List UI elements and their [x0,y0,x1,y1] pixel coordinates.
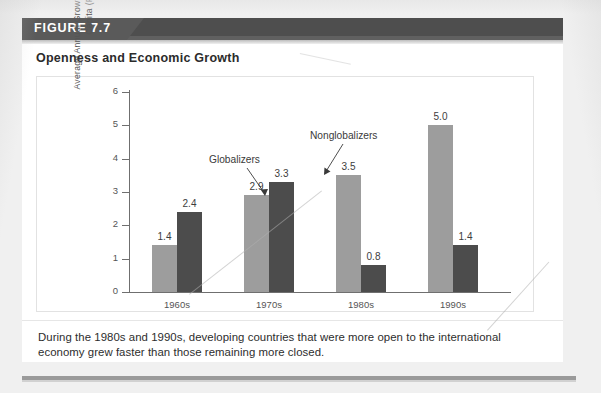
bar-value-label: 5.0 [434,111,448,122]
y-tick-label: 3 [96,185,118,196]
y-tick-mark [122,92,130,93]
figure-page: FIGURE 7.7 Openness and Economic Growth … [0,0,601,393]
page-bottom-rule-soft [22,380,576,382]
bar-value-label: 1.4 [158,231,172,242]
bar-value-label: 3.5 [342,161,356,172]
plot-area: 0123456 1.42.42.93.33.50.85.01.4 1960s19… [129,90,511,293]
bar-1990s-nonglobalizers: 1.4 [453,245,478,292]
y-tick-mark [122,125,130,126]
figure-caption: During the 1980s and 1990s, developing c… [38,330,538,360]
y-tick-mark [122,259,130,260]
bar-value-label: 0.8 [367,251,381,262]
bar-1960s-globalizers: 1.4 [152,245,177,292]
y-tick-mark [122,192,130,193]
figure-title: Openness and Economic Growth [36,51,240,65]
bar-value-label: 1.4 [459,231,473,242]
y-tick-label: 6 [96,85,118,96]
x-category-label: 1990s [440,299,466,310]
y-tick-label: 4 [96,152,118,163]
y-tick-mark [122,292,130,293]
y-tick-label: 5 [96,118,118,129]
annotation-nonglobalizers: Nonglobalizers [310,130,377,141]
y-tick-mark [122,225,130,226]
bar-1960s-nonglobalizers: 2.4 [177,212,202,292]
bar-1990s-globalizers: 5.0 [428,125,453,292]
y-tick-label: 2 [96,218,118,229]
y-tick-label: 1 [96,252,118,263]
bar-1980s-globalizers: 3.5 [336,175,361,292]
x-category-label: 1980s [348,299,374,310]
x-axis-line [129,292,511,293]
x-category-label: 1960s [164,299,190,310]
bar-1970s-globalizers: 2.9 [244,195,269,292]
x-category-label: 1970s [256,299,282,310]
y-axis-title: Average Annual Growth in Real Income per… [72,0,95,96]
annotation-globalizers: Globalizers [209,154,260,165]
caption-divider [22,320,563,321]
y-tick-label: 0 [96,285,118,296]
bar-value-label: 3.3 [275,168,289,179]
bar-value-label: 2.4 [183,198,197,209]
bar-value-label: 2.9 [250,181,264,192]
bar-1980s-nonglobalizers: 0.8 [361,265,386,292]
y-tick-mark [122,159,130,160]
bar-1970s-nonglobalizers: 3.3 [269,182,294,292]
